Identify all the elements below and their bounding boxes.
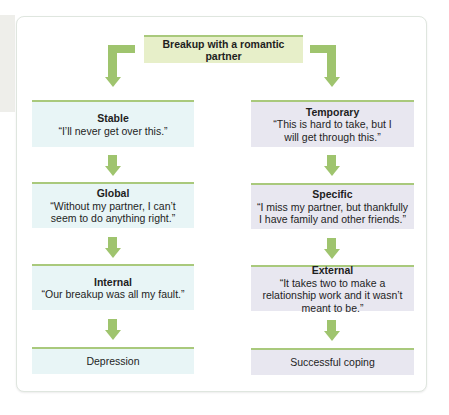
node-quote: “I’ll never get over this.” <box>58 125 167 138</box>
arrow-down-icon <box>324 166 340 176</box>
side-strip <box>0 15 15 112</box>
node-global: Global “Without my partner, I can’t seem… <box>32 182 194 228</box>
node-title: Internal <box>94 276 132 289</box>
node-depression: Depression <box>32 347 194 374</box>
node-quote: “Our breakup was all my fault.” <box>42 288 185 301</box>
node-internal: Internal “Our breakup was all my fault.” <box>32 264 194 310</box>
node-quote: “I miss my partner, but thankfully I hav… <box>255 201 410 226</box>
node-stable: Stable “I’ll never get over this.” <box>32 100 194 147</box>
node-temporary: Temporary “This is hard to take, but I w… <box>251 100 414 147</box>
node-title: Temporary <box>306 106 360 119</box>
arrow-down-icon <box>105 330 121 340</box>
root-label: Breakup with a romantic partner <box>148 38 299 63</box>
node-title: Global <box>97 187 130 200</box>
outcome-label: Depression <box>86 355 139 368</box>
elbow-arrow-left-vertical <box>108 45 117 77</box>
root-node: Breakup with a romantic partner <box>144 35 303 63</box>
arrow-down-icon <box>324 331 340 341</box>
outcome-label: Successful coping <box>290 356 375 369</box>
arrow-down-icon <box>105 248 121 258</box>
node-title: External <box>312 264 353 277</box>
node-title: Stable <box>97 112 129 125</box>
node-quote: “It takes two to make a relationship wor… <box>255 277 410 315</box>
node-successful-coping: Successful coping <box>251 348 414 375</box>
node-specific: Specific “I miss my partner, but thankfu… <box>251 183 414 229</box>
elbow-arrow-right-vertical <box>327 45 336 77</box>
arrow-down-icon <box>324 249 340 259</box>
node-quote: “Without my partner, I can’t seem to do … <box>44 200 182 225</box>
node-title: Specific <box>312 188 352 201</box>
node-external: External “It takes two to make a relatio… <box>251 265 414 311</box>
arrow-down-icon <box>105 77 121 87</box>
node-quote: “This is hard to take, but I will get th… <box>271 118 394 143</box>
arrow-down-icon <box>105 166 121 176</box>
arrow-down-icon <box>324 77 340 87</box>
